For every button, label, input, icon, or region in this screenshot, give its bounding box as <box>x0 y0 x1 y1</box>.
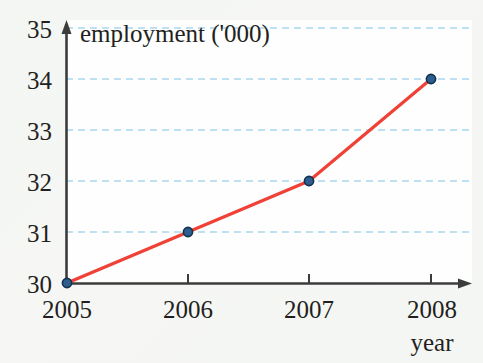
x-tick-label-2005: 2005 <box>22 297 112 322</box>
x-axis <box>66 279 472 289</box>
x-tick-label-2008: 2008 <box>387 297 477 322</box>
gridlines <box>66 28 472 232</box>
y-axis-arrowhead <box>62 20 72 34</box>
y-tick-label-34: 34 <box>4 68 52 93</box>
x-tick-marks <box>188 274 431 283</box>
x-tick-label-2006: 2006 <box>143 297 233 322</box>
data-point-2005 <box>62 278 71 287</box>
x-axis-title: year <box>392 330 472 355</box>
x-axis-arrowhead <box>458 279 472 289</box>
x-tick-label-2007: 2007 <box>264 297 354 322</box>
y-axis <box>62 20 72 283</box>
y-tick-label-31: 31 <box>4 221 52 246</box>
chart-figure: 35 34 33 32 31 30 2005 2006 2007 2008 em… <box>0 0 483 363</box>
y-tick-label-30: 30 <box>4 272 52 297</box>
data-point-2007 <box>304 176 313 185</box>
y-tick-label-35: 35 <box>4 17 52 42</box>
data-point-2006 <box>183 227 192 236</box>
data-point-2008 <box>426 74 435 83</box>
y-tick-label-32: 32 <box>4 170 52 195</box>
y-axis-title: employment ('000) <box>80 20 270 47</box>
y-tick-label-33: 33 <box>4 119 52 144</box>
